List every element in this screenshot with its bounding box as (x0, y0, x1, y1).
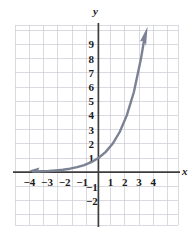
y-tick-label: 2 (89, 138, 95, 150)
y-tick-label: 9 (89, 38, 95, 50)
x-tick-label: 4 (150, 176, 156, 188)
y-tick-label: 4 (89, 109, 95, 121)
x-tick-label: −2 (59, 176, 71, 188)
y-tick-label: −2 (86, 195, 98, 207)
y-tick-label: 6 (89, 81, 95, 93)
y-axis-label: y (93, 6, 98, 17)
exponential-function-graph: −4 −3 −2 −1 1 2 3 4 9 8 7 6 5 4 3 2 1 −1… (0, 0, 196, 237)
x-tick-label: −3 (41, 176, 53, 188)
y-tick-label: 5 (89, 95, 95, 107)
y-tick-label: 3 (89, 124, 95, 136)
x-axis-label: x (182, 166, 188, 177)
x-tick-label: −4 (24, 176, 36, 188)
y-tick-labels: 9 8 7 6 5 4 3 2 1 (89, 38, 95, 164)
x-tick-label: 2 (122, 176, 128, 188)
y-tick-label: −1 (86, 181, 98, 193)
y-tick-label: 8 (89, 53, 95, 65)
x-tick-label: 3 (136, 176, 142, 188)
x-tick-label: 1 (108, 176, 114, 188)
plot-area: −4 −3 −2 −1 1 2 3 4 9 8 7 6 5 4 3 2 1 −1… (0, 0, 196, 237)
y-tick-label: 7 (89, 67, 95, 79)
